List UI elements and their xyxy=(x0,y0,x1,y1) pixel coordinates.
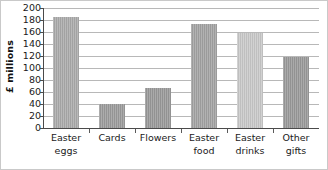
y-tick-label: 40 xyxy=(15,99,41,109)
y-axis-title-text: £ millions xyxy=(4,40,15,93)
bar-slot xyxy=(89,8,135,128)
y-tick-label: 200 xyxy=(15,3,41,13)
x-category-label-line1: Easter xyxy=(235,132,265,143)
y-tick-label: 140 xyxy=(15,39,41,49)
x-category-label-line1: Easter xyxy=(51,132,81,143)
plot-area xyxy=(43,8,319,129)
y-tick-label: 160 xyxy=(15,27,41,37)
x-category-label-line1: Flowers xyxy=(140,132,176,143)
y-tick-label: 100 xyxy=(15,63,41,73)
x-category-label-line2: eggs xyxy=(43,145,89,158)
y-tick-label: 120 xyxy=(15,51,41,61)
y-tick-label: 80 xyxy=(15,75,41,85)
x-category-label: Othergifts xyxy=(273,132,319,157)
bar-slot xyxy=(273,8,319,128)
bar-easter-food xyxy=(191,24,217,128)
y-tick-label: 60 xyxy=(15,87,41,97)
bar-slot xyxy=(227,8,273,128)
x-category-label: Cards xyxy=(89,132,135,145)
bar-easter-eggs xyxy=(53,17,79,128)
x-category-label: Easterfood xyxy=(181,132,227,157)
bar-slot xyxy=(43,8,89,128)
x-category-label-line2: gifts xyxy=(273,145,319,158)
bar-easter-drinks xyxy=(237,33,263,128)
x-category-label: Flowers xyxy=(135,132,181,145)
x-axis-category-labels: EastereggsCardsFlowersEasterfoodEasterdr… xyxy=(43,132,319,170)
bar-other-gifts xyxy=(283,57,309,128)
bar-flowers xyxy=(145,88,171,128)
y-tick-label: 20 xyxy=(15,111,41,121)
y-axis-tick-labels: 200180160140120100806040200 xyxy=(15,3,41,129)
bars-group xyxy=(43,8,319,129)
bar-slot xyxy=(135,8,181,128)
bar-slot xyxy=(181,8,227,128)
y-tick-label: 0 xyxy=(15,123,41,133)
x-category-label: Easterdrinks xyxy=(227,132,273,157)
x-category-label-line1: Other xyxy=(283,132,310,143)
bar-cards xyxy=(99,104,125,128)
x-category-label-line2: food xyxy=(181,145,227,158)
y-tick-label: 180 xyxy=(15,15,41,25)
x-category-label-line1: Easter xyxy=(189,132,219,143)
x-category-label-line1: Cards xyxy=(98,132,125,143)
x-category-label-line2: drinks xyxy=(227,145,273,158)
x-category-label: Eastereggs xyxy=(43,132,89,157)
bar-chart: £ millions 200180160140120100806040200 E… xyxy=(0,0,328,170)
